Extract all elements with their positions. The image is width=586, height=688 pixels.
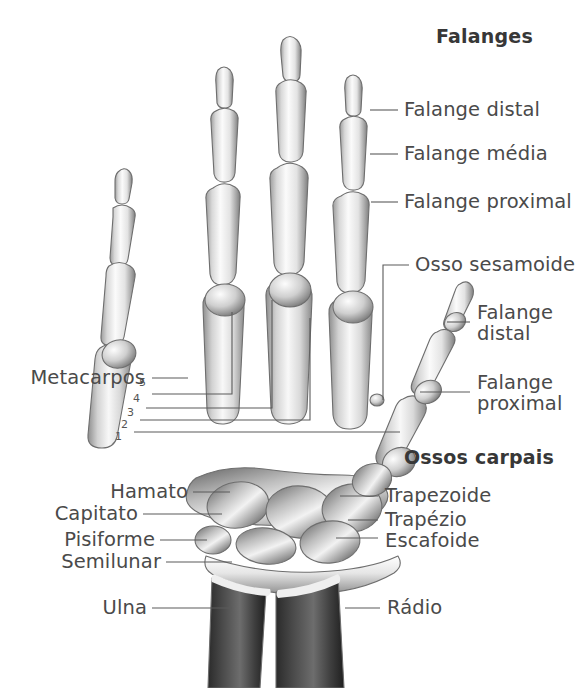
label-metacarpal-number-1: 1 [96,426,122,447]
label-semilunar: Semilunar [0,551,161,572]
label-falange-distal: Falange distal [404,99,540,120]
label-falange-proximal: Falange proximal [404,191,572,212]
label-escafoide: Escafoide [385,530,480,551]
label-radio: Rádio [387,597,442,618]
group-title-ossos-carpais: Ossos carpais [404,447,554,468]
label-thumb-falange-distal-line1: Falange [477,302,553,323]
leader-osso-sesamoide [383,265,409,400]
label-thumb-falange-distal-line2: distal [477,323,531,344]
label-capitato: Capitato [0,503,138,524]
label-trapezoide: Trapezoide [385,485,491,506]
sesamoid-bone [370,394,384,406]
label-ulna: Ulna [0,597,147,618]
label-osso-sesamoide: Osso sesamoide [415,254,575,275]
label-thumb-falange-proximal-line2: proximal [477,393,562,414]
label-falange-media: Falange média [404,143,548,164]
group-title-falanges: Falanges [436,26,533,47]
figure-canvas: Falanges Falange distal Falange média Fa… [0,0,586,688]
label-pisiforme: Pisiforme [0,529,155,550]
label-hamato: Hamato [0,481,188,502]
label-trapezio: Trapézio [385,509,467,530]
label-thumb-falange-proximal-line1: Falange [477,372,553,393]
